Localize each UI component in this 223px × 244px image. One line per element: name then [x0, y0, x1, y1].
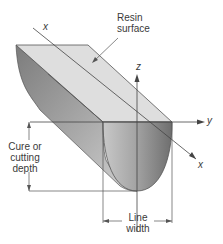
- cure-depth-label: Cure or cutting depth: [3, 141, 47, 174]
- cure-depth-label-line1: Cure or: [3, 141, 47, 152]
- z-axis-label: z: [136, 62, 141, 72]
- y-axis-label: y: [207, 116, 212, 126]
- z-axis-arrowhead: [135, 74, 140, 82]
- line-width-label: Line width: [121, 212, 155, 234]
- line-width-label-line1: Line: [121, 212, 155, 223]
- line-width-label-line2: width: [121, 223, 155, 234]
- x-axis-label-bottom: x: [198, 160, 203, 170]
- resin-surface-label: Resin surface: [117, 12, 150, 34]
- x-axis-label-top: x: [43, 22, 48, 32]
- resin-surface-label-line2: surface: [117, 23, 150, 34]
- cure-depth-label-line3: depth: [3, 163, 47, 174]
- cure-depth-arrow-down: [27, 185, 31, 191]
- cured-line-diagram: [0, 0, 223, 244]
- line-width-arrow-right: [166, 219, 172, 223]
- resin-surface-label-line1: Resin: [117, 12, 150, 23]
- resin-surface-leader: [94, 38, 118, 61]
- cure-depth-label-line2: cutting: [3, 152, 47, 163]
- front-cross-section: [103, 122, 172, 191]
- cure-depth-arrow-up: [27, 122, 31, 128]
- x-axis-arrowhead: [189, 152, 196, 159]
- y-axis-arrowhead: [197, 120, 205, 125]
- line-width-arrow-left: [103, 219, 109, 223]
